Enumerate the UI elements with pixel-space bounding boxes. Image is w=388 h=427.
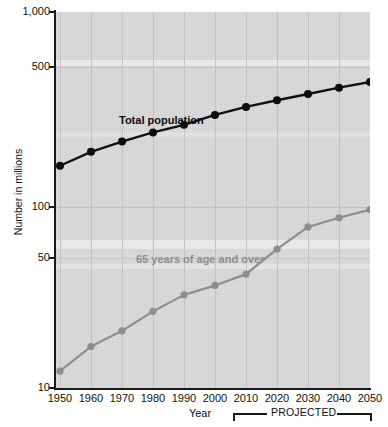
data-point — [335, 214, 342, 221]
x-axis-line — [54, 388, 371, 390]
data-point — [273, 245, 280, 252]
data-point — [366, 78, 370, 86]
y-axis-title: Number in millions — [12, 122, 24, 262]
projected-bracket: PROJECTED — [233, 406, 373, 422]
data-point — [211, 282, 218, 289]
chart-root: Total population 65 years of age and ove… — [0, 0, 388, 427]
data-point — [149, 128, 157, 136]
y-tick-label: 50 — [2, 252, 50, 263]
projected-bracket-tick-right — [370, 413, 372, 421]
x-tick-label: 2050 — [350, 392, 388, 404]
projected-bracket-line-right — [337, 413, 371, 415]
data-point — [118, 327, 125, 334]
projected-bracket-line-left — [233, 413, 267, 415]
data-point — [242, 271, 249, 278]
data-point — [56, 162, 64, 170]
plot-area: Total population 65 years of age and ove… — [55, 12, 370, 388]
data-point — [366, 206, 370, 213]
y-axis-line — [54, 10, 56, 390]
data-point — [304, 90, 312, 98]
y-tick-label: 100 — [2, 201, 50, 212]
line-total-population — [60, 82, 370, 166]
data-point — [56, 367, 63, 374]
data-point — [87, 148, 95, 156]
x-axis-title: Year — [160, 407, 240, 419]
data-point — [118, 138, 126, 146]
data-point — [335, 84, 343, 92]
data-point — [211, 111, 219, 119]
data-point — [87, 343, 94, 350]
data-point — [180, 291, 187, 298]
projected-label: PROJECTED — [271, 406, 336, 418]
y-tick-label: 500 — [2, 61, 50, 72]
data-point — [273, 96, 281, 104]
data-point — [242, 103, 250, 111]
elderly-label: 65 years of age and over — [136, 253, 264, 265]
data-point — [149, 308, 156, 315]
data-point — [304, 223, 311, 230]
total-population-label: Total population — [119, 114, 204, 126]
line-elderly — [60, 210, 370, 372]
series-layer — [55, 12, 370, 388]
y-tick-label: 1,000 — [2, 6, 50, 17]
markers-elderly — [56, 206, 370, 375]
